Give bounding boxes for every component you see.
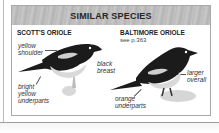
panel-title: SIMILAR SPECIES <box>70 11 152 21</box>
label-line: underparts <box>18 97 49 104</box>
species-name-scotts-oriole: SCOTT'S ORIOLE <box>17 29 72 36</box>
panel-header: SIMILAR SPECIES <box>12 6 210 25</box>
page-left-rule <box>3 0 4 122</box>
species-name-baltimore-oriole: BALTIMORE ORIOLE <box>120 29 185 36</box>
scotts-oriole-illustration-icon <box>14 36 106 98</box>
page-reference: see p.363 <box>120 37 146 43</box>
page-bottom-strip <box>0 123 219 133</box>
baltimore-oriole-illustration-icon <box>108 44 208 106</box>
similar-species-panel: SIMILAR SPECIES SCOTT'S ORIOLE yellow sh… <box>11 5 211 116</box>
